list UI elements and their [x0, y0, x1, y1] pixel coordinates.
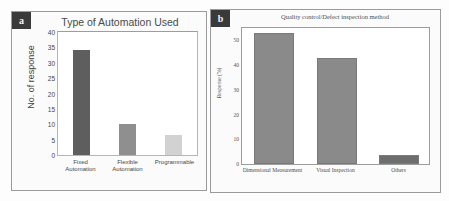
x-tick-label: Others	[367, 167, 430, 173]
y-tick-label: 10	[234, 136, 240, 142]
x-axis-labels-a: Fixed AutomationFlexible AutomationProgr…	[57, 159, 198, 173]
y-tick-label: 30	[234, 87, 240, 93]
chart-title-a: Type of Automation Used	[36, 16, 204, 28]
y-tick-label: 30	[48, 59, 55, 66]
x-tick-label: Dimensional Measurement	[241, 167, 304, 173]
y-axis-title-a: No. of response	[26, 32, 36, 122]
y-tick-label: 40	[48, 29, 55, 36]
x-tick-label: Visual Inspection	[304, 167, 367, 173]
bar	[379, 155, 419, 164]
y-tick-label: 20	[234, 112, 240, 118]
plot-area-b	[241, 27, 430, 165]
y-tick-label: 10	[48, 121, 55, 128]
x-tick-label: Flexible Automation	[104, 159, 151, 173]
bar	[254, 33, 294, 164]
chart-panel-a: a Type of Automation Used 05101520253035…	[11, 11, 207, 191]
y-tick-label: 40	[234, 62, 240, 68]
y-tick-label: 5	[51, 136, 55, 143]
y-tick-label: 25	[48, 75, 55, 82]
y-tick-label: 50	[234, 37, 240, 43]
plot-area-a	[57, 31, 198, 156]
y-axis-title-b: Response (%)	[216, 51, 222, 115]
x-tick-label: Fixed Automation	[57, 159, 104, 173]
panel-label-a: a	[12, 12, 31, 29]
y-tick-label: 20	[48, 90, 55, 97]
y-tick-label: 0	[236, 161, 239, 167]
panel-label-b: b	[211, 10, 230, 27]
y-axis-ticks-a: 0510152025303540	[38, 31, 55, 156]
y-tick-label: 35	[48, 44, 55, 51]
bar-series-a	[58, 32, 197, 155]
bar-series-b	[242, 28, 429, 164]
x-axis-labels-b: Dimensional MeasurementVisual Inspection…	[241, 167, 430, 173]
bar	[119, 124, 136, 155]
chart-title-b: Quality control/Defect inspection method	[231, 13, 439, 20]
chart-panel-b: b Quality control/Defect inspection meth…	[210, 9, 441, 193]
y-tick-label: 0	[51, 152, 55, 159]
x-tick-label: Programmable	[151, 159, 198, 173]
figure-root: a Type of Automation Used 05101520253035…	[0, 0, 449, 201]
bar	[317, 58, 357, 164]
y-tick-label: 15	[48, 105, 55, 112]
y-axis-ticks-b: 01020304050	[225, 27, 239, 165]
bar	[165, 135, 182, 155]
bar	[73, 50, 90, 155]
